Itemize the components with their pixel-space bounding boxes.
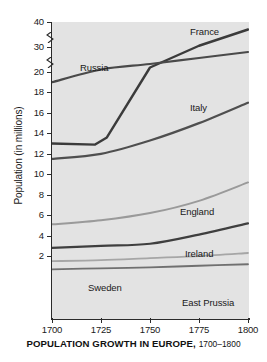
y-tick-mark bbox=[47, 195, 52, 196]
axis-break-upper-icon bbox=[44, 32, 56, 43]
y-tick-label: 12 bbox=[0, 149, 44, 158]
y-tick-label: 20 bbox=[0, 67, 44, 76]
series-label-russia: Russia bbox=[80, 62, 108, 73]
caption-main: POPULATION GROWTH IN EUROPE, bbox=[26, 338, 195, 349]
y-tick-label: 2 bbox=[0, 251, 44, 260]
y-tick-mark bbox=[47, 72, 52, 73]
y-tick-mark bbox=[47, 256, 52, 257]
y-tick-mark bbox=[47, 215, 52, 216]
y-tick-label: 16 bbox=[0, 108, 44, 117]
y-tick-mark bbox=[47, 113, 52, 114]
series-label-france: France bbox=[190, 26, 219, 37]
series-line-ireland bbox=[52, 223, 248, 248]
series-line-england bbox=[52, 182, 248, 224]
y-tick-label: 14 bbox=[0, 128, 44, 137]
chart-figure: Population (in millions) 246810121416182… bbox=[0, 0, 267, 362]
x-tick-label: 1775 bbox=[179, 324, 219, 335]
y-tick-mark bbox=[47, 92, 52, 93]
series-line-italy bbox=[52, 103, 248, 159]
x-tick-label: 1700 bbox=[32, 324, 72, 335]
y-tick-label: 18 bbox=[0, 87, 44, 96]
axis-break-lower-icon bbox=[44, 57, 56, 68]
y-tick-mark bbox=[47, 154, 52, 155]
series-line-sweden bbox=[52, 253, 248, 261]
y-tick-mark bbox=[47, 174, 52, 175]
chart-caption: POPULATION GROWTH IN EUROPE, 1700–1800 bbox=[0, 338, 267, 349]
y-tick-label: 30 bbox=[0, 42, 44, 51]
x-tick-mark bbox=[52, 318, 53, 323]
series-label-italy: Italy bbox=[190, 102, 207, 113]
series-label-england: England bbox=[180, 206, 214, 217]
y-tick-label: 40 bbox=[0, 17, 44, 26]
caption-years: 1700–1800 bbox=[199, 339, 241, 349]
x-tick-mark bbox=[248, 318, 249, 323]
series-label-ireland: Ireland bbox=[185, 248, 213, 259]
y-tick-mark bbox=[47, 47, 52, 48]
series-line-east-prussia bbox=[52, 264, 248, 269]
y-tick-mark bbox=[47, 133, 52, 134]
x-tick-mark bbox=[199, 318, 200, 323]
x-tick-label: 1800 bbox=[228, 324, 267, 335]
x-tick-mark bbox=[101, 318, 102, 323]
y-tick-label: 10 bbox=[0, 169, 44, 178]
x-tick-mark bbox=[150, 318, 151, 323]
y-tick-label: 4 bbox=[0, 231, 44, 240]
series-label-east-prussia: East Prussia bbox=[182, 297, 234, 308]
series-label-sweden: Sweden bbox=[88, 282, 122, 293]
series-line-france bbox=[52, 30, 248, 145]
x-tick-label: 1750 bbox=[130, 324, 170, 335]
y-tick-label: 6 bbox=[0, 210, 44, 219]
y-tick-label: 8 bbox=[0, 190, 44, 199]
y-tick-mark bbox=[47, 236, 52, 237]
y-tick-mark bbox=[47, 22, 52, 23]
x-tick-label: 1725 bbox=[81, 324, 121, 335]
